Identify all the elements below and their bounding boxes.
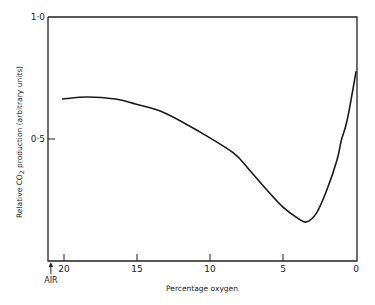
y-tick-label: 1·0 xyxy=(31,12,46,22)
x-axis-label: Percentage oxygen xyxy=(166,284,238,293)
x-tick-label: 10 xyxy=(204,264,216,274)
y-axis-label-suffix: production (arbitrary units) xyxy=(15,66,24,170)
annotations: AIR xyxy=(44,262,58,285)
x-tick-label: 20 xyxy=(58,264,70,274)
x-tick-label: 0 xyxy=(353,264,359,274)
x-tick-label: 5 xyxy=(280,264,286,274)
y-tick-label: 0·5 xyxy=(31,134,45,144)
y-axis-label-main: Relative CO xyxy=(15,174,24,218)
series-line xyxy=(63,72,357,222)
x-tick-label: 15 xyxy=(131,264,142,274)
plot-frame xyxy=(48,17,357,261)
axes xyxy=(48,17,357,261)
series xyxy=(63,72,357,222)
air-label: AIR xyxy=(44,276,58,285)
y-axis-label: Relative CO2 production (arbitrary units… xyxy=(15,66,25,218)
y-ticks: 0·51·0 xyxy=(31,12,55,144)
x-ticks: 20151050 xyxy=(58,254,359,274)
chart: 20151050 0·51·0 AIR Percentage oxygen Re… xyxy=(0,0,375,305)
air-arrow-icon xyxy=(49,262,53,267)
